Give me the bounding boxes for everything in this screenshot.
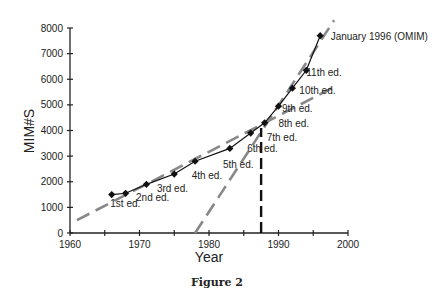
y-tick-label: 0 (57, 228, 63, 239)
x-tick-label: 1960 (59, 239, 82, 250)
annotation-label: 10th ed. (299, 85, 335, 96)
x-tick-label: 1990 (267, 239, 290, 250)
annotation-label: 11th ed. (306, 67, 341, 78)
figure-caption: Figure 2 (191, 276, 243, 289)
chart: 1960197019801990200001000200030004000500… (0, 0, 434, 294)
x-axis-title: Year (195, 249, 224, 265)
annotation-label: 3rd ed. (157, 183, 188, 194)
y-tick-label: 7000 (41, 48, 64, 59)
x-tick-label: 2000 (337, 239, 360, 250)
y-axis-title: MIM#S (21, 109, 37, 153)
x-tick-label: 1970 (128, 239, 151, 250)
y-tick-label: 6000 (41, 74, 64, 85)
y-tick-label: 2000 (41, 176, 64, 187)
data-point (108, 191, 115, 198)
y-tick-label: 8000 (41, 23, 64, 34)
annotation-label: 4th ed. (192, 170, 223, 181)
y-tick-label: 5000 (41, 99, 64, 110)
y-tick-label: 4000 (41, 125, 64, 136)
y-tick-label: 3000 (41, 151, 64, 162)
annotation-label: 9th ed. (282, 103, 313, 114)
annotation-label: January 1996 (OMIM) (331, 31, 428, 42)
y-tick-label: 1000 (41, 202, 64, 213)
annotation-label: 7th ed. (267, 132, 298, 143)
annotation-label: 5th ed. (223, 159, 254, 170)
annotation-label: 8th ed. (279, 118, 310, 129)
annotation-label: 6th ed. (247, 143, 278, 154)
